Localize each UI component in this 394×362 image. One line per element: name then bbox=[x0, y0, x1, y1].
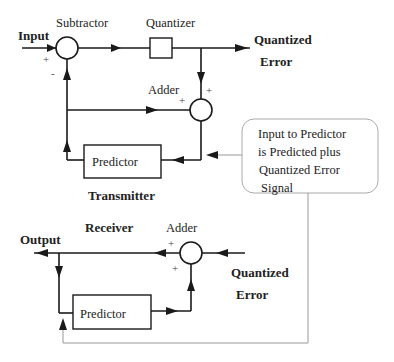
arrow-right-icon bbox=[111, 44, 121, 52]
arrow-up-icon bbox=[59, 318, 67, 330]
receiver-error-label-line2: Error bbox=[236, 287, 268, 302]
arrow-up-icon bbox=[63, 68, 71, 80]
output-label: Output bbox=[20, 232, 61, 247]
arrow-down-icon bbox=[197, 72, 205, 84]
subtractor-minus-sign: - bbox=[51, 67, 55, 79]
receiver-adder-node bbox=[180, 242, 202, 264]
dpcm-block-diagram: Input Subtractor Quantizer + - Quantized… bbox=[0, 0, 394, 362]
subtractor-plus-sign: + bbox=[43, 53, 49, 65]
arrow-right-icon bbox=[235, 44, 248, 52]
input-label: Input bbox=[18, 28, 50, 43]
arrow-up-icon bbox=[187, 279, 195, 291]
receiver-title: Receiver bbox=[85, 220, 134, 235]
quantizer-block bbox=[150, 38, 172, 58]
receiver-quantized-label-line1: Quantized bbox=[231, 265, 290, 280]
note-line-1: Input to Predictor bbox=[258, 127, 347, 141]
arrow-left-icon bbox=[172, 156, 184, 164]
arrow-left-icon bbox=[154, 249, 166, 257]
arrow-left-icon bbox=[206, 151, 218, 159]
arrow-right-icon bbox=[47, 44, 56, 52]
arrow-right-icon bbox=[166, 307, 178, 315]
transmitter-title: Transmitter bbox=[88, 188, 155, 203]
subtractor-label: Subtractor bbox=[56, 16, 109, 30]
arrow-down-icon bbox=[55, 266, 63, 278]
quantized-error-label-line1: Quantized bbox=[254, 32, 313, 47]
note-line-4: Signal bbox=[261, 181, 293, 195]
adder-plus-top: + bbox=[206, 84, 212, 96]
arrow-right-icon bbox=[146, 106, 158, 114]
adder-plus-left: + bbox=[179, 94, 185, 106]
subtractor-node bbox=[56, 37, 78, 59]
receiver-adder-plus-top: + bbox=[168, 237, 174, 249]
transmitter-adder-node bbox=[190, 99, 212, 121]
receiver-adder-label: Adder bbox=[166, 221, 198, 235]
arrow-left-icon bbox=[36, 249, 48, 257]
arrow-left-icon bbox=[216, 249, 228, 257]
receiver-predictor-label: Predictor bbox=[80, 307, 127, 321]
note-line-3: Quantized Error bbox=[259, 163, 341, 177]
transmitter-predictor-label: Predictor bbox=[92, 155, 139, 169]
arrow-up-icon bbox=[63, 140, 71, 152]
note-line-2: is Predicted plus bbox=[258, 145, 341, 159]
receiver-section: Receiver Adder Output + + Quantized Erro… bbox=[20, 220, 290, 329]
adder-label: Adder bbox=[148, 83, 180, 97]
quantizer-label: Quantizer bbox=[146, 16, 196, 30]
quantized-error-label-line2: Error bbox=[260, 54, 292, 69]
receiver-adder-plus-bottom: + bbox=[172, 262, 178, 274]
